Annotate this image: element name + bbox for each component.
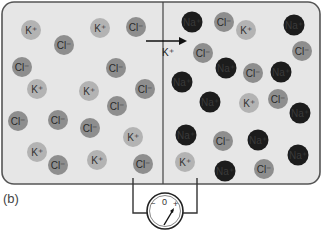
- cl-ion: Cl⁻: [133, 154, 153, 174]
- ion-label: Cl⁻: [246, 68, 260, 79]
- ion-label: Cl⁻: [196, 48, 210, 59]
- cl-ion: Cl⁻: [106, 58, 126, 78]
- na-ion: Na⁺: [216, 58, 237, 79]
- ion-label: Cl⁻: [216, 136, 230, 147]
- k-ion: K⁺: [123, 127, 143, 147]
- cl-ion: Cl⁻: [48, 110, 68, 130]
- ion-label: K⁺: [127, 132, 139, 143]
- ion-label: Na⁺: [217, 63, 235, 74]
- na-ion: Na⁺: [176, 125, 197, 146]
- cl-ion: Cl⁻: [126, 17, 146, 37]
- ion-label: K⁺: [31, 147, 43, 158]
- voltmeter-plus-label: +: [173, 199, 178, 209]
- ion-label: K⁺: [240, 25, 252, 36]
- ion-label: Cl⁻: [138, 84, 152, 95]
- na-ion: Na⁺: [182, 12, 203, 33]
- ion-label: Na⁺: [201, 97, 219, 108]
- ion-label: Cl⁻: [51, 160, 65, 171]
- ion-label: Cl⁻: [11, 116, 25, 127]
- ion-label: K⁺: [179, 157, 191, 168]
- voltmeter: 0 − +: [147, 193, 183, 229]
- cl-ion: Cl⁻: [193, 43, 213, 63]
- figure-caption: (b): [3, 191, 19, 206]
- cl-ion: Cl⁻: [254, 159, 274, 179]
- ion-label: K⁺: [94, 23, 106, 34]
- k-ion: K⁺: [27, 142, 47, 162]
- ion-label: Cl⁻: [271, 94, 285, 105]
- ion-label: Na⁺: [285, 20, 303, 31]
- na-ion: Na⁺: [284, 15, 305, 36]
- na-ion: Na⁺: [248, 130, 269, 151]
- na-ion: Na⁺: [290, 103, 311, 124]
- ion-label: K⁺: [25, 25, 37, 36]
- cl-ion: Cl⁻: [12, 57, 32, 77]
- cl-ion: Cl⁻: [213, 131, 233, 151]
- ion-label: Cl⁻: [257, 164, 271, 175]
- k-ion: K⁺: [175, 152, 195, 172]
- ion-label: Na⁺: [183, 17, 201, 28]
- cl-ion: Cl⁻: [243, 63, 263, 83]
- ion-label: K⁺: [83, 86, 95, 97]
- k-ion: K⁺: [90, 18, 110, 38]
- ion-label: Na⁺: [291, 108, 309, 119]
- k-ion: K⁺: [239, 93, 259, 113]
- ion-label: K⁺: [91, 155, 103, 166]
- ion-label: Cl⁻: [109, 63, 123, 74]
- na-ion: Na⁺: [271, 62, 292, 83]
- ion-label: Cl⁻: [136, 159, 150, 170]
- voltmeter-zero-label: 0: [162, 197, 167, 207]
- ion-label: Cl⁻: [217, 17, 231, 28]
- cl-ion: Cl⁻: [80, 118, 100, 138]
- ion-label: K⁺: [31, 84, 43, 95]
- ion-label: Cl⁻: [57, 40, 71, 51]
- k-ion: K⁺: [27, 79, 47, 99]
- na-ion: Na⁺: [172, 72, 193, 93]
- k-ion: K⁺: [236, 20, 256, 40]
- ion-label: Na⁺: [173, 77, 191, 88]
- cl-ion: Cl⁻: [292, 41, 312, 61]
- ion-label: Na⁺: [249, 135, 267, 146]
- ion-label: Cl⁻: [129, 22, 143, 33]
- ion-label: Cl⁻: [295, 46, 309, 57]
- ion-label: K⁺: [243, 98, 255, 109]
- k-ion: K⁺: [21, 20, 41, 40]
- na-ion: Na⁺: [200, 92, 221, 113]
- ion-diagram: K⁺ K⁺Cl⁻Cl⁻K⁺Cl⁻Cl⁻K⁺K⁺Cl⁻Cl⁻Cl⁻Cl⁻Cl⁻K⁺…: [0, 0, 322, 231]
- cl-ion: Cl⁻: [48, 155, 68, 175]
- ion-label: Na⁺: [216, 166, 234, 177]
- cl-ion: Cl⁻: [268, 89, 288, 109]
- ion-label: Cl⁻: [15, 62, 29, 73]
- cl-ion: Cl⁻: [54, 35, 74, 55]
- ion-label: Cl⁻: [110, 101, 124, 112]
- ion-label: Na⁺: [177, 130, 195, 141]
- cl-ion: Cl⁻: [107, 96, 127, 116]
- na-ion: Na⁺: [215, 161, 236, 182]
- ion-label: Cl⁻: [51, 115, 65, 126]
- ion-label: Na⁺: [289, 150, 307, 161]
- k-ion: K⁺: [87, 150, 107, 170]
- voltmeter-minus-label: −: [151, 199, 156, 208]
- cl-ion: Cl⁻: [214, 12, 234, 32]
- cl-ion: Cl⁻: [8, 111, 28, 131]
- arrow-label: K⁺: [162, 47, 174, 58]
- cl-ion: Cl⁻: [135, 79, 155, 99]
- ion-label: Cl⁻: [83, 123, 97, 134]
- na-ion: Na⁺: [288, 145, 309, 166]
- ion-label: Na⁺: [272, 67, 290, 78]
- k-ion: K⁺: [79, 81, 99, 101]
